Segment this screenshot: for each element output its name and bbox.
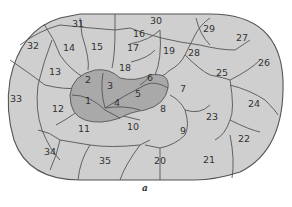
region-label-24: 24 <box>248 98 260 109</box>
region-label-20: 20 <box>154 155 166 166</box>
region-label-31: 31 <box>72 18 84 29</box>
region-label-3: 3 <box>107 80 113 91</box>
region-label-9: 9 <box>180 125 186 136</box>
figure-caption: a <box>142 183 148 193</box>
region-label-29: 29 <box>203 23 215 34</box>
region-label-21: 21 <box>203 154 215 165</box>
region-label-17: 17 <box>127 42 139 53</box>
region-label-14: 14 <box>63 42 75 53</box>
region-label-11: 11 <box>78 123 90 134</box>
region-label-6: 6 <box>147 72 153 83</box>
region-label-5: 5 <box>135 88 141 99</box>
region-label-28: 28 <box>188 47 200 58</box>
region-label-16: 16 <box>133 28 145 39</box>
region-label-34: 34 <box>44 146 56 157</box>
region-label-35: 35 <box>99 155 111 166</box>
region-diagram: 1 2 3 4 5 6 7 8 9 10 11 12 13 14 15 16 1… <box>0 0 292 207</box>
region-label-15: 15 <box>91 41 103 52</box>
region-label-12: 12 <box>52 103 64 114</box>
region-label-30: 30 <box>150 15 162 26</box>
region-label-23: 23 <box>206 111 218 122</box>
region-label-25: 25 <box>216 67 228 78</box>
region-label-19: 19 <box>163 45 175 56</box>
region-label-7: 7 <box>180 83 186 94</box>
region-label-2: 2 <box>85 74 91 85</box>
region-label-33: 33 <box>10 93 22 104</box>
region-label-22: 22 <box>238 133 250 144</box>
region-label-27: 27 <box>236 32 248 43</box>
region-label-26: 26 <box>258 57 270 68</box>
region-label-8: 8 <box>160 103 166 114</box>
region-label-32: 32 <box>27 40 39 51</box>
region-label-1: 1 <box>85 95 91 106</box>
region-label-4: 4 <box>114 97 120 108</box>
region-label-10: 10 <box>127 121 139 132</box>
region-label-18: 18 <box>119 62 131 73</box>
region-label-13: 13 <box>49 66 61 77</box>
